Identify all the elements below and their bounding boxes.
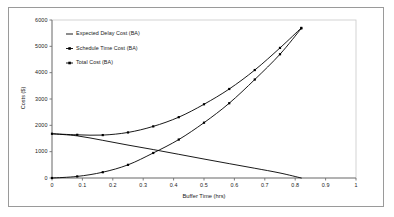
x-tick-label: 0	[40, 182, 64, 188]
x-tick-label: 0.6	[222, 182, 246, 188]
y-tick-label: 4000	[0, 69, 48, 75]
x-tick-label: 1	[344, 182, 368, 188]
y-tick-label: 6000	[0, 17, 48, 23]
y-tick-label: 0	[0, 175, 48, 181]
x-tick-label: 0.8	[283, 182, 307, 188]
y-tick-label: 1000	[0, 148, 48, 154]
y-tick-label: 5000	[0, 43, 48, 49]
x-tick-label: 0.3	[131, 182, 155, 188]
plot-border	[52, 20, 356, 178]
legend-label-1: Expected Delay Cost (BA)	[76, 30, 140, 36]
chart-axes	[52, 20, 356, 178]
y-tick-label: 3000	[0, 96, 48, 102]
x-axis-title: Buffer Time (hrs)	[52, 193, 356, 199]
series-3	[51, 27, 302, 136]
legend-label-2: Schedule Time Cost (BA)	[76, 45, 138, 51]
x-tick-label: 0.4	[162, 182, 186, 188]
x-tick-label: 0.5	[192, 182, 216, 188]
y-tick-label: 2000	[0, 122, 48, 128]
legend-markers	[66, 34, 73, 64]
legend-label-3: Total Cost (BA)	[76, 59, 113, 65]
x-tick-label: 0.2	[101, 182, 125, 188]
x-tick-label: 0.1	[70, 182, 94, 188]
x-tick-label: 0.7	[253, 182, 277, 188]
x-tick-label: 0.9	[314, 182, 338, 188]
